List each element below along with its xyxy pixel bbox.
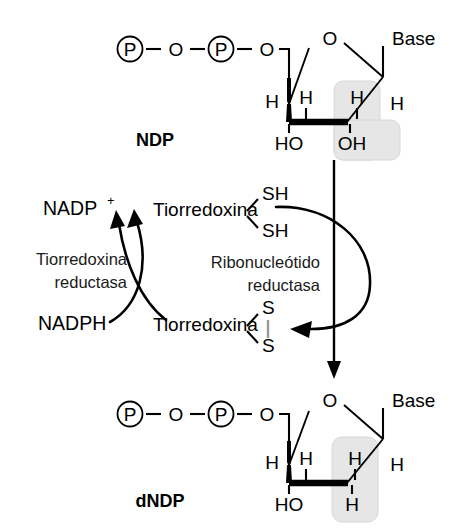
product-h-c3-label: H: [299, 448, 313, 469]
product-h-c4-label: H: [265, 452, 279, 473]
diagram-canvas: P O P O O Base H H H H HO OH NDP: [0, 0, 459, 531]
product-phosphate-1-label: P: [124, 404, 137, 425]
nadp-plus-label: NADP: [43, 197, 97, 219]
substrate-base-label: Base: [392, 28, 435, 49]
product-h-c2-down-label: H: [345, 494, 359, 515]
thiol-sh-top-label: SH: [262, 183, 288, 204]
ribonucleotide-reductase-diagram: P O P O O Base H H H H HO OH NDP: [0, 0, 459, 531]
product-base-label: Base: [392, 390, 435, 411]
substrate-ring-bond-c4-c3: [286, 104, 292, 122]
substrate-ester-o-label: O: [260, 39, 275, 60]
product-bridge-o-label: O: [169, 404, 184, 425]
product-phosphate-2-label: P: [215, 404, 228, 425]
substrate-oh-c3-label: HO: [275, 133, 304, 154]
substrate-molecule-label: NDP: [136, 130, 174, 150]
disulfide-s-top-label: S: [262, 297, 275, 318]
thiol-sh-bottom-label: SH: [262, 220, 288, 241]
thioredoxin-oxidized-label: Tiorredoxina: [153, 314, 258, 335]
product-ring-bond-c4-c3: [286, 465, 292, 483]
product-molecule-label: dNDP: [136, 491, 185, 511]
product-h-c2-up-label: H: [348, 448, 362, 469]
ribonucleotide-reductase-line1: Ribonucleótido: [211, 253, 320, 271]
thioredoxin-reduced-label: Tiorredoxina: [153, 199, 258, 220]
substrate-h-c2-label: H: [350, 87, 364, 108]
substrate-ring-o-label: O: [323, 28, 338, 49]
substrate-h-c3-label: H: [299, 87, 313, 108]
disulfide-s-bottom-label: S: [262, 335, 275, 356]
product-oh-c3-label: HO: [275, 494, 304, 515]
substrate-h-c4-label: H: [265, 91, 279, 112]
substrate-phosphate-2-label: P: [215, 39, 228, 60]
thioredoxin-reductase-line1: Tiorredoxina: [36, 250, 128, 268]
ribonucleotide-reductase-line2: reductasa: [248, 276, 321, 294]
product-h-c1-label: H: [390, 454, 404, 475]
product-ester-o-label: O: [260, 404, 275, 425]
substrate-bridge-o-label: O: [169, 39, 184, 60]
substrate-h-c1-label: H: [390, 93, 404, 114]
thioredoxin-reductase-line2: reductasa: [55, 273, 128, 291]
nadph-label: NADPH: [38, 312, 106, 334]
substrate-oh-c2-label: OH: [338, 133, 367, 154]
product-ring-o-label: O: [323, 390, 338, 411]
nadp-plus-superscript: +: [107, 193, 115, 208]
substrate-phosphate-1-label: P: [124, 39, 137, 60]
